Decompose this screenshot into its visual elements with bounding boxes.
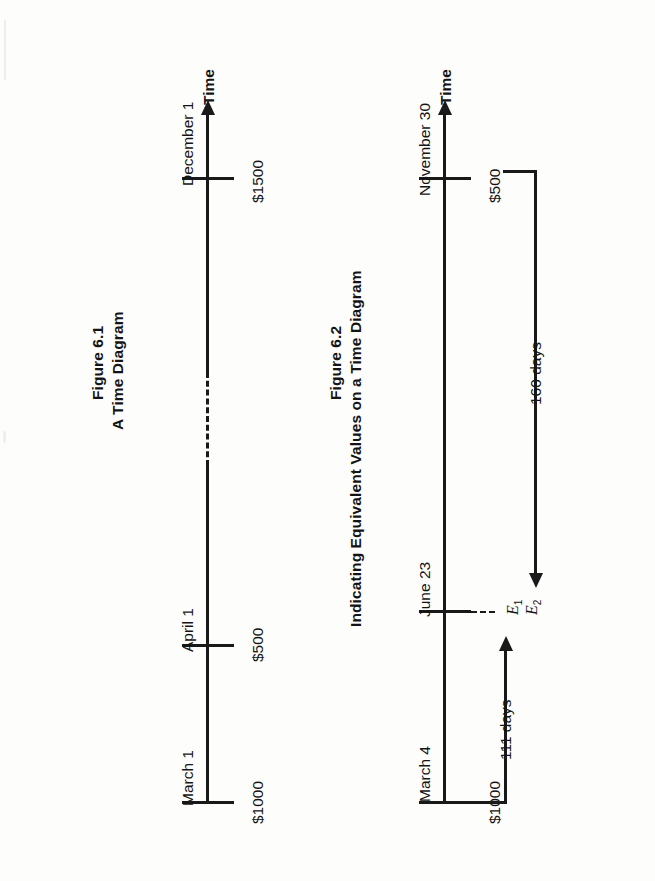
figure-6-2-interval-160-days: 160 days xyxy=(528,342,544,405)
figure-6-2-caption: Indicating Equivalent Values on a Time D… xyxy=(348,270,364,627)
figure-6-2-axis-line xyxy=(443,112,446,803)
figure-6-2-date-march-4: March 4 xyxy=(417,746,433,802)
figure-6-2-number: Figure 6.2 xyxy=(328,326,344,400)
scan-artifact xyxy=(3,430,6,444)
figure-6-2-amount-500: $500 xyxy=(487,169,503,203)
e2-base: E xyxy=(523,605,540,615)
figure-6-2-111-days-bracket-foot xyxy=(471,801,506,804)
figure-6-2-date-november-30: November 30 xyxy=(417,103,433,196)
figure-6-2-focal-date-leader xyxy=(471,611,495,613)
scanned-page: Figure 6.1 A Time Diagram Time December … xyxy=(0,0,655,881)
figure-6-1-caption: A Time Diagram xyxy=(110,311,126,430)
figure-6-1-axis-label: Time xyxy=(201,69,217,105)
figure-6-1-axis-break xyxy=(206,372,209,466)
figure-6-1-axis-line-lower xyxy=(206,466,209,803)
figure-6-1-amount-500: $500 xyxy=(250,628,266,662)
e1-base: E xyxy=(504,605,521,615)
figure-6-1-date-december-1: December 1 xyxy=(180,102,196,186)
figure-6-2-date-june-23: June 23 xyxy=(417,562,433,617)
figure-6-1-date-march-1: March 1 xyxy=(180,750,196,806)
figure-6-2-160-days-arrowhead xyxy=(529,573,543,588)
figure-6-2-axis-label: Time xyxy=(438,69,454,105)
figure-6-1-amount-1000: $1000 xyxy=(250,781,266,824)
figure-6-1-amount-1500: $1500 xyxy=(250,160,266,203)
figure-6-1-axis-line-upper xyxy=(206,112,209,372)
figure-6-1-date-april-1: April 1 xyxy=(180,608,196,652)
figure-6-2-111-days-arrowhead xyxy=(499,636,513,651)
figure-6-2-interval-111-days: 111 days xyxy=(498,699,514,760)
scan-artifact xyxy=(4,20,6,80)
figure-6-2-equivalent-value-e2: E2 xyxy=(524,600,543,615)
figure-6-2-equivalent-value-e1: E1 xyxy=(505,600,524,615)
figure-6-1-number: Figure 6.1 xyxy=(90,326,106,400)
e2-subscript: 2 xyxy=(532,600,543,606)
figure-6-2-160-days-bracket-foot xyxy=(503,170,536,173)
